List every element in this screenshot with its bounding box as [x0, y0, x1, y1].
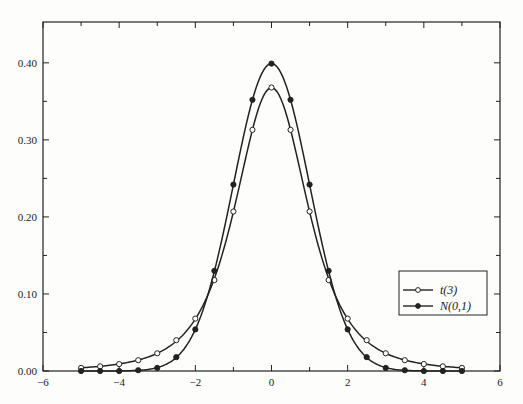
open-circle-marker-icon: [117, 361, 122, 366]
open-circle-marker-icon: [250, 127, 255, 132]
x-tick-label: 4: [421, 376, 427, 388]
open-circle-marker-icon: [193, 316, 198, 321]
filled-circle-marker-icon: [402, 368, 407, 373]
open-circle-marker-icon: [231, 209, 236, 214]
filled-circle-marker-icon: [136, 368, 141, 373]
data-series: [78, 61, 464, 374]
open-circle-marker-icon: [307, 209, 312, 214]
series-line: [81, 64, 462, 371]
filled-circle-marker-icon: [440, 368, 445, 373]
open-circle-marker-icon: [383, 351, 388, 356]
filled-circle-marker-icon: [269, 61, 274, 66]
x-tick-label: −4: [113, 376, 125, 388]
filled-circle-marker-icon: [98, 368, 103, 373]
open-circle-marker-icon: [421, 361, 426, 366]
y-tick-label: 0.40: [18, 57, 38, 69]
filled-circle-marker-icon: [212, 268, 217, 273]
filled-circle-marker-icon: [117, 368, 122, 373]
filled-circle-marker-icon: [155, 365, 160, 370]
open-circle-marker-icon: [155, 351, 160, 356]
legend-label-t3: t(3): [440, 283, 457, 297]
open-circle-marker-icon: [269, 85, 274, 90]
y-tick-label: 0.10: [18, 288, 38, 300]
open-circle-marker-icon: [402, 358, 407, 363]
filled-circle-marker-icon: [345, 327, 350, 332]
filled-circle-marker-icon: [193, 327, 198, 332]
x-tick-label: 0: [269, 376, 275, 388]
filled-circle-marker-icon: [231, 182, 236, 187]
filled-circle-marker-icon: [288, 97, 293, 102]
plot-frame: [43, 22, 500, 371]
legend-open-circle-icon: [416, 288, 421, 293]
open-circle-marker-icon: [136, 358, 141, 363]
x-tick-label: 2: [345, 376, 351, 388]
filled-circle-marker-icon: [174, 355, 179, 360]
filled-circle-marker-icon: [421, 368, 426, 373]
open-circle-marker-icon: [364, 338, 369, 343]
y-tick-label: 0.00: [18, 365, 38, 377]
legend-label-normal: N(0,1): [439, 299, 471, 313]
open-circle-marker-icon: [174, 338, 179, 343]
chart: −6−4−202460.000.100.200.300.40 t(3) N(0,…: [0, 0, 523, 404]
legend-filled-circle-icon: [416, 304, 421, 309]
y-tick-label: 0.20: [18, 211, 38, 223]
filled-circle-marker-icon: [250, 97, 255, 102]
filled-circle-marker-icon: [459, 368, 464, 373]
y-tick-label: 0.30: [18, 134, 38, 146]
filled-circle-marker-icon: [78, 368, 83, 373]
x-tick-label: −6: [37, 376, 49, 388]
legend: t(3) N(0,1): [399, 271, 487, 315]
x-tick-label: −2: [189, 376, 201, 388]
filled-circle-marker-icon: [326, 268, 331, 273]
x-tick-label: 6: [497, 376, 503, 388]
axis-ticks: [43, 22, 500, 371]
filled-circle-marker-icon: [383, 365, 388, 370]
series-line: [81, 88, 462, 368]
open-circle-marker-icon: [288, 127, 293, 132]
open-circle-marker-icon: [345, 316, 350, 321]
tick-labels: −6−4−202460.000.100.200.300.40: [18, 57, 504, 388]
filled-circle-marker-icon: [364, 355, 369, 360]
filled-circle-marker-icon: [307, 182, 312, 187]
